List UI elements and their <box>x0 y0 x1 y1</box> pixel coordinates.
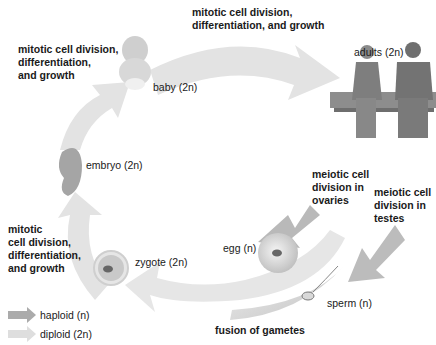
line: mitotic cell division, <box>192 6 324 19</box>
legend-haploid-arrow <box>8 307 36 323</box>
stage-label-baby: baby (2n) <box>153 81 197 94</box>
process-label-meiotic-testes: meiotic cell division in testes <box>374 186 431 225</box>
embryo-figure <box>59 148 82 196</box>
process-label-mitotic-left: mitotic cell division, differentiation, … <box>8 223 81 275</box>
line: meiotic cell <box>312 168 369 181</box>
line: differentiation, and growth <box>192 19 324 32</box>
baby-figure <box>119 36 151 90</box>
process-label-mitotic-top-left: mitotic cell division, differentiation, … <box>18 43 118 82</box>
line: division in <box>374 199 431 212</box>
line: ovaries <box>312 194 369 207</box>
stage-label-adults: adults (2n) <box>354 46 404 59</box>
line: and growth <box>8 262 81 275</box>
line: meiotic cell <box>374 186 431 199</box>
process-label-fusion: fusion of gametes <box>215 324 305 337</box>
diploid-arrow-embryo-to-baby <box>60 82 130 150</box>
stage-label-embryo: embryo (2n) <box>86 159 143 172</box>
line: and growth <box>18 69 118 82</box>
legend-haploid-label: haploid (n) <box>40 309 90 322</box>
line: testes <box>374 212 431 225</box>
haploid-arrow-testes <box>348 225 405 282</box>
stage-label-egg: egg (n) <box>223 242 256 255</box>
egg-cell <box>258 233 298 273</box>
line: mitotic <box>8 223 81 236</box>
legend-diploid-arrow <box>8 326 36 342</box>
legend-diploid-label: diploid (2n) <box>40 328 92 341</box>
process-label-meiotic-ovaries: meiotic cell division in ovaries <box>312 168 369 207</box>
line: cell division, <box>8 236 81 249</box>
line: differentiation, <box>18 56 118 69</box>
line: differentiation, <box>8 249 81 262</box>
line: mitotic cell division, <box>18 43 118 56</box>
stage-label-zygote: zygote (2n) <box>135 256 188 269</box>
zygote-cell <box>94 251 128 285</box>
stage-label-sperm: sperm (n) <box>327 297 372 310</box>
process-label-mitotic-top: mitotic cell division, differentiation, … <box>192 6 324 32</box>
line: division in <box>312 181 369 194</box>
